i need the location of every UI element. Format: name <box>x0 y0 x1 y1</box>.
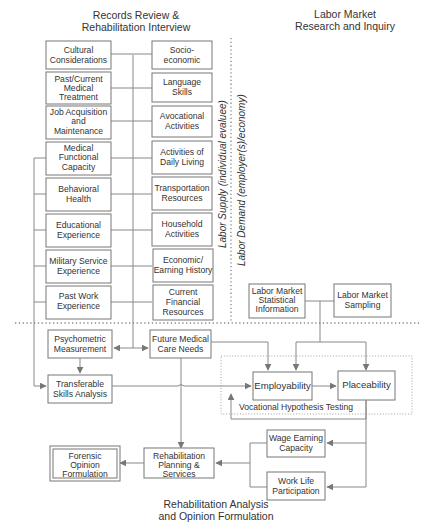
svg-text:Placeability: Placeability <box>342 379 391 390</box>
svg-text:Future Medical: Future Medical <box>152 334 209 344</box>
svg-text:Earning History: Earning History <box>154 265 213 275</box>
svg-text:Research and Inquiry: Research and Inquiry <box>295 20 396 32</box>
heading-records-review: Records Review & Rehabilitation Intervie… <box>82 9 191 33</box>
svg-text:Work Life: Work Life <box>278 476 314 486</box>
svg-text:Educational: Educational <box>56 220 101 230</box>
svg-text:Past Work: Past Work <box>59 291 99 301</box>
svg-text:Functional: Functional <box>59 152 99 162</box>
svg-text:Activities of: Activities of <box>160 147 204 157</box>
svg-text:Treatment: Treatment <box>59 92 98 102</box>
svg-text:Care Needs: Care Needs <box>158 344 204 354</box>
heading-rehab-analysis: Rehabilitation Analysis and Opinion Form… <box>159 498 274 522</box>
svg-text:Labor Market: Labor Market <box>314 8 376 20</box>
svg-text:Daily Living: Daily Living <box>160 157 204 167</box>
svg-text:Measurement: Measurement <box>54 344 107 354</box>
svg-text:Capacity: Capacity <box>279 443 313 453</box>
vocational-assessment-diagram: Records Review & Rehabilitation Intervie… <box>0 0 429 530</box>
svg-text:economic: economic <box>164 55 201 65</box>
svg-text:Cultural: Cultural <box>64 45 94 55</box>
svg-text:Experience: Experience <box>57 230 100 240</box>
right-column: Socio- economic Language Skills Avocatio… <box>152 41 213 320</box>
svg-text:Labor Market: Labor Market <box>337 290 388 300</box>
svg-text:Financial: Financial <box>166 297 200 307</box>
svg-text:Military Service: Military Service <box>49 256 107 266</box>
heading-labor-market: Labor Market Research and Inquiry <box>295 8 396 32</box>
svg-text:Behavioral: Behavioral <box>58 184 99 194</box>
svg-text:Health: Health <box>66 194 91 204</box>
vocational-testing-label: Vocational Hypothesis Testing <box>239 402 353 412</box>
svg-text:Psychometric: Psychometric <box>54 334 106 344</box>
svg-text:Socio-: Socio- <box>170 45 194 55</box>
svg-text:Sampling: Sampling <box>345 300 381 310</box>
svg-text:Wage Earning: Wage Earning <box>269 433 323 443</box>
svg-text:Household: Household <box>161 219 202 229</box>
labor-market-boxes: Labor Market Statistical Information Lab… <box>249 284 391 370</box>
svg-text:Experience: Experience <box>57 301 100 311</box>
svg-text:Employability: Employability <box>254 380 311 391</box>
svg-text:Records Review &: Records Review & <box>93 9 179 21</box>
svg-text:Resources: Resources <box>162 307 203 317</box>
svg-text:Rehabilitation Analysis: Rehabilitation Analysis <box>163 498 268 510</box>
svg-text:Formulation: Formulation <box>62 469 108 479</box>
svg-text:Rehabilitation Interview: Rehabilitation Interview <box>82 21 191 33</box>
left-column: Cultural Considerations Past/Current Med… <box>34 41 152 319</box>
svg-text:Activities: Activities <box>165 121 199 131</box>
svg-text:Experience: Experience <box>57 266 100 276</box>
svg-text:Transportation: Transportation <box>154 183 209 193</box>
labor-demand-label: Labor Demand (employer(s)/economy) <box>236 94 247 266</box>
svg-text:Language: Language <box>163 77 201 87</box>
svg-text:Maintenance: Maintenance <box>54 126 103 136</box>
svg-text:and: and <box>71 116 86 126</box>
svg-text:Activities: Activities <box>165 229 199 239</box>
svg-text:Skills: Skills <box>172 87 192 97</box>
svg-text:Skills Analysis: Skills Analysis <box>53 389 107 399</box>
svg-text:Current: Current <box>169 287 198 297</box>
svg-text:Resources: Resources <box>161 193 202 203</box>
svg-text:Participation: Participation <box>272 486 320 496</box>
svg-text:Information: Information <box>256 304 299 314</box>
svg-text:Services: Services <box>163 469 196 479</box>
svg-text:Economic/: Economic/ <box>163 255 204 265</box>
svg-text:Capacity: Capacity <box>62 162 96 172</box>
svg-text:Avocational: Avocational <box>160 111 204 121</box>
svg-text:Considerations: Considerations <box>50 55 107 65</box>
svg-text:and Opinion Formulation: and Opinion Formulation <box>159 510 274 522</box>
svg-text:Transferable: Transferable <box>56 379 104 389</box>
labor-supply-label: Labor Supply (individual evaluee) <box>217 100 228 248</box>
